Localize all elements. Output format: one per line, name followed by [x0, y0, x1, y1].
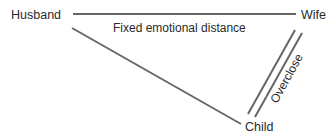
node-husband: Husband [11, 8, 61, 22]
edge-label-fixed-emotional-distance: Fixed emotional distance [113, 21, 246, 35]
edge-husband-child [72, 28, 241, 124]
family-triangle-diagram: Husband Wife Child Fixed emotional dista… [0, 0, 334, 138]
node-wife: Wife [301, 8, 326, 22]
node-child: Child [245, 120, 274, 134]
